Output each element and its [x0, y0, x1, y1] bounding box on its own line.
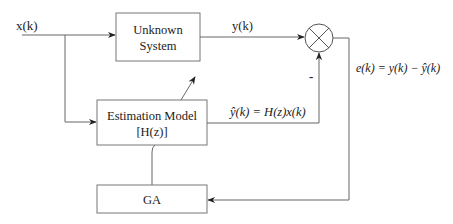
- estimation-model-block: Estimation Model [H(z)]: [97, 100, 207, 145]
- ga-to-model-line: [152, 145, 155, 185]
- estimate-equation: ŷ(k) = H(z)x(k): [228, 105, 306, 119]
- unknown-system-label-line2: System: [140, 39, 177, 53]
- input-label: x(k): [16, 18, 38, 33]
- output-label: y(k): [232, 19, 253, 33]
- error-signal-line: [208, 38, 349, 200]
- ga-block: GA: [97, 185, 207, 213]
- estimation-model-label-line2: [H(z)]: [136, 125, 167, 139]
- summing-junction: [305, 24, 333, 52]
- unknown-system-label-line1: Unknown: [133, 23, 183, 37]
- ga-label: GA: [143, 193, 161, 207]
- branch-to-estimation-line: [65, 35, 96, 122]
- block-diagram: x(k) Unknown System y(k) - Estimation Mo…: [0, 0, 453, 224]
- unknown-system-block: Unknown System: [116, 13, 200, 61]
- estimation-model-label-line1: Estimation Model: [107, 109, 197, 123]
- adaptation-arrow: [181, 77, 195, 100]
- minus-sign: -: [309, 69, 313, 84]
- error-equation: e(k) = y(k) − ŷ(k): [356, 61, 440, 75]
